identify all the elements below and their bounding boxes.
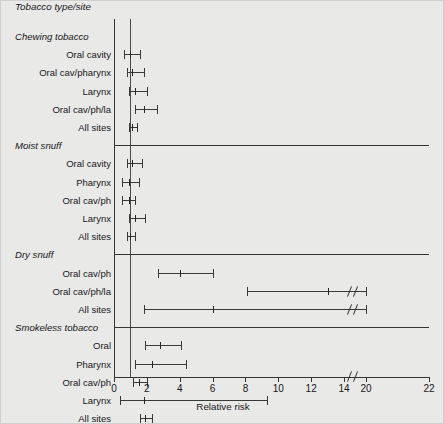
error-bar [114,287,429,296]
row-label: Oral cav/ph/la [1,286,111,297]
x-tick [344,377,345,382]
row-label: Oral cav/ph [1,268,111,279]
confidence-interval-line [127,72,143,73]
ci-cap-upper [152,414,153,423]
confidence-interval-line [158,273,212,274]
point-estimate [132,160,133,167]
ci-cap-upper [181,341,182,350]
error-bar [114,87,429,96]
ci-cap-upper [140,50,141,59]
group-separator [114,327,429,328]
point-estimate [130,51,131,58]
point-estimate [160,342,161,349]
ci-cap-lower [158,269,159,278]
column-header: Tobacco type/site [15,1,215,12]
ci-cap-lower [127,159,128,168]
group-separator [114,145,429,146]
x-tick-label: 20 [354,383,378,394]
error-bar [114,105,429,114]
point-estimate [129,197,130,204]
ci-cap-lower [124,50,125,59]
row-label: All sites [1,413,111,424]
ci-cap-upper [135,196,136,205]
point-estimate [328,288,329,295]
confidence-interval-line [129,218,145,219]
point-estimate [129,179,130,186]
x-axis-label: Relative risk [1,401,444,412]
ci-cap-lower [135,105,136,114]
row-label: Oral cav/ph/la [1,104,111,115]
ci-cap-upper [135,232,136,241]
row-label: Pharynx [1,359,111,370]
confidence-interval-line [145,345,181,346]
x-tick-label: 8 [233,383,257,394]
row-label: Pharynx [1,177,111,188]
ci-cap-lower [129,87,130,96]
ci-cap-lower [247,287,248,296]
ci-cap-upper [366,287,367,296]
error-bar [114,50,429,59]
x-tick [114,377,115,382]
ci-cap-upper [157,105,158,114]
row-label: Oral cav/pharynx [1,67,111,78]
point-estimate [130,233,131,240]
error-bar [114,360,429,369]
error-bar [114,269,429,278]
point-estimate [132,69,133,76]
ci-cap-lower [122,178,123,187]
x-tick [180,377,181,382]
point-estimate [152,361,153,368]
row-label: Oral cavity [1,49,111,60]
ci-cap-lower [135,360,136,369]
row-label: All sites [1,122,111,133]
row-label: Larynx [1,213,111,224]
ci-cap-upper [142,159,143,168]
error-bar [114,68,429,77]
ci-cap-lower [127,232,128,241]
point-estimate [180,270,181,277]
point-estimate [213,306,214,313]
row-label: Larynx [1,86,111,97]
x-tick [278,377,279,382]
ci-cap-upper [139,178,140,187]
row-label: All sites [1,231,111,242]
ci-cap-upper [147,87,148,96]
x-tick-label: 6 [201,383,225,394]
x-tick-label: 22 [417,383,441,394]
x-tick-label: 12 [299,383,323,394]
ci-cap-upper [144,68,145,77]
error-bar [114,178,429,187]
x-tick [213,377,214,382]
x-tick [429,377,430,382]
ci-cap-lower [129,123,130,132]
error-bar [114,196,429,205]
group-separator [114,254,429,255]
ci-cap-upper [213,269,214,278]
point-estimate [132,124,133,131]
x-tick-label: 0 [102,383,126,394]
ci-cap-upper [186,360,187,369]
confidence-interval-line [129,91,147,92]
ci-cap-lower [144,305,145,314]
plot-area: 024681012142022 [114,19,429,378]
confidence-interval-line [135,364,187,365]
forest-plot-figure: Tobacco type/site Chewing tobaccoOral ca… [0,0,444,424]
confidence-interval-line [144,309,366,310]
x-tick [245,377,246,382]
point-estimate [144,106,145,113]
confidence-interval-line [122,182,138,183]
ci-cap-upper [137,123,138,132]
x-tick-label: 14 [332,383,356,394]
error-bar [114,232,429,241]
ci-cap-lower [127,68,128,77]
ci-cap-lower [145,341,146,350]
row-label: Oral [1,340,111,351]
confidence-interval-line [124,54,140,55]
row-label: Oral cav/ph [1,195,111,206]
ci-cap-upper [145,214,146,223]
ci-cap-lower [133,378,134,387]
error-bar [114,159,429,168]
point-estimate [135,88,136,95]
x-tick [311,377,312,382]
ci-cap-lower [122,196,123,205]
